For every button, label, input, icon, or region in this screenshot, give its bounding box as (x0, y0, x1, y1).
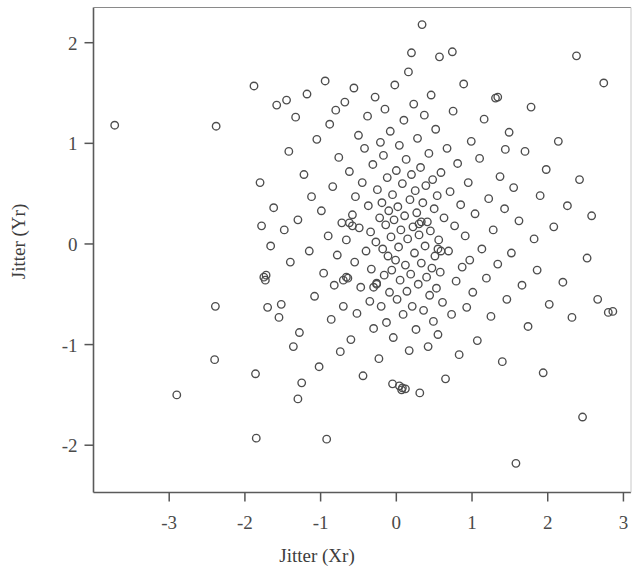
data-point-marker (436, 53, 444, 61)
data-point-marker (415, 280, 423, 288)
data-point-marker (588, 212, 596, 220)
data-point-marker (379, 245, 387, 253)
data-point-marker (458, 263, 466, 271)
data-point-marker (455, 351, 463, 359)
data-point-marker (424, 343, 432, 351)
data-point-marker (464, 179, 472, 187)
data-point-marker (414, 135, 422, 143)
data-point-marker (111, 121, 119, 129)
data-point-marker (386, 289, 394, 297)
data-point-marker (468, 138, 476, 146)
data-point-marker (211, 356, 219, 364)
data-point-marker (503, 296, 511, 304)
data-point-marker (275, 314, 283, 322)
data-point-marker (568, 314, 576, 322)
data-point-marker (515, 217, 523, 225)
data-point-marker (576, 176, 584, 184)
data-point-marker (212, 303, 220, 311)
data-point-marker (343, 236, 351, 244)
data-point-marker (308, 193, 316, 201)
data-point-marker (384, 252, 392, 260)
data-point-marker (324, 232, 332, 240)
data-point-marker (476, 155, 484, 163)
data-point-marker (579, 413, 587, 421)
data-point-marker (364, 112, 372, 120)
x-axis-ticks (169, 493, 623, 502)
data-point-marker (353, 310, 361, 318)
data-point-marker (389, 191, 397, 199)
data-point-marker (359, 179, 367, 187)
data-point-marker (370, 325, 378, 333)
data-point-marker (499, 358, 507, 366)
data-point-marker (573, 52, 581, 60)
data-point-marker (320, 269, 328, 277)
data-point-marker (403, 288, 411, 296)
data-point-marker (341, 98, 349, 106)
data-point-marker (463, 304, 471, 312)
data-point-marker (380, 152, 388, 160)
x-tick-label: 0 (392, 513, 402, 532)
data-point-marker (489, 226, 497, 234)
data-point-marker (439, 299, 447, 307)
data-point-marker (300, 171, 308, 179)
data-point-marker (377, 139, 385, 147)
data-point-marker (555, 138, 563, 146)
data-point-marker (399, 180, 407, 188)
data-point-marker (564, 202, 572, 210)
data-point-marker (428, 264, 436, 272)
data-point-marker (393, 167, 401, 175)
data-point-marker (559, 278, 567, 286)
data-point-marker (335, 154, 343, 162)
data-point-marker (383, 174, 391, 182)
scatter-plot-figure: -3-2-10123 -2-1012 Jitter (Xr) Jitter (Y… (0, 0, 634, 579)
data-point-marker (415, 231, 423, 239)
data-point-marker (415, 220, 423, 228)
data-point-marker (422, 182, 430, 190)
data-point-marker (369, 161, 377, 169)
data-point-marker (446, 188, 454, 196)
data-point-marker (397, 226, 405, 234)
data-point-marker (527, 103, 535, 111)
data-point-marker (394, 203, 402, 211)
data-point-marker (294, 395, 302, 403)
data-point-marker (518, 281, 526, 289)
data-point-marker (313, 136, 321, 144)
data-point-marker (258, 222, 266, 230)
data-point-marker (487, 313, 495, 321)
data-point-marker (396, 142, 404, 150)
data-point-marker (417, 164, 425, 172)
data-point-marker (471, 210, 479, 218)
data-point-marker (273, 101, 281, 109)
data-point-marker (391, 81, 399, 89)
data-point-marker (469, 289, 477, 297)
data-point-marker (283, 96, 291, 104)
data-point-marker (337, 348, 345, 356)
data-point-marker (402, 261, 410, 269)
data-point-marker (270, 204, 278, 212)
data-point-marker (377, 303, 385, 311)
data-point-marker (454, 160, 462, 168)
data-point-marker (173, 391, 181, 399)
data-point-marker (430, 205, 438, 213)
data-point-marker (420, 307, 428, 315)
data-point-marker (536, 192, 544, 200)
data-point-marker (326, 120, 334, 128)
data-point-marker (375, 355, 383, 363)
y-axis-ticks (85, 43, 94, 445)
y-tick-label: 1 (0, 134, 78, 153)
data-point-marker (278, 301, 286, 309)
data-point-marker (392, 256, 400, 264)
data-point-marker (362, 247, 370, 255)
data-point-marker (430, 318, 438, 326)
data-point-marker (408, 49, 416, 57)
data-point-marker (478, 245, 486, 253)
data-point-marker (400, 116, 408, 124)
data-point-marker (290, 343, 298, 351)
data-point-marker (366, 298, 374, 306)
data-point-marker (530, 235, 538, 243)
data-point-marker (264, 304, 272, 312)
data-point-marker (365, 202, 373, 210)
data-point-marker (427, 91, 435, 99)
data-point-marker (250, 82, 257, 90)
data-point-marker (445, 247, 453, 255)
